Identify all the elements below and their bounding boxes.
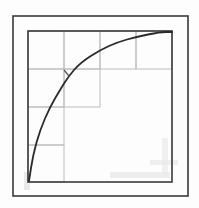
staircase-grid	[28, 31, 172, 182]
grid-cell	[100, 31, 136, 69]
sketch-canvas	[0, 0, 199, 208]
grid-cell	[28, 69, 64, 107]
grid-cell	[28, 107, 64, 145]
grid-cell	[28, 145, 64, 182]
tick-mark	[64, 70, 69, 76]
grid-cell	[28, 31, 64, 69]
curve-diagram	[0, 0, 199, 208]
